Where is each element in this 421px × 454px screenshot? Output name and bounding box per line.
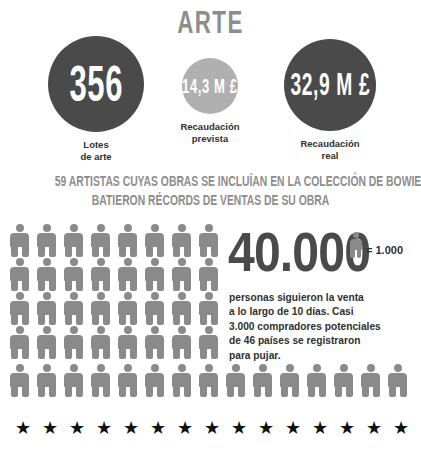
person-leg-r [76,314,83,325]
legend-label: = 1.000 [366,244,403,258]
person-head [70,326,78,334]
person-leg-l [200,314,207,325]
person-leg-l [119,246,126,257]
person-head [70,292,78,300]
person-leg-r [49,280,56,291]
person-icon [87,326,114,359]
person-body [172,335,191,349]
person-body [145,301,164,315]
person-leg-r [49,246,56,257]
person-leg-l [146,280,153,291]
person-leg-r [184,348,191,359]
person-leg-r [22,386,29,397]
person-leg-r [238,386,245,397]
person-leg-r [76,280,83,291]
person-leg-l [173,246,180,257]
person-leg-right [357,249,362,258]
person-icon [168,224,195,257]
person-head [205,258,213,266]
pictogram-row [6,292,222,325]
person-icon [141,292,168,325]
person-icon [195,364,222,397]
pictogram-row [6,258,222,291]
headline-line-1: 59 ARTISTAS CUYAS OBRAS SE INCLUÍAN EN L… [55,172,367,191]
person-leg-r [130,386,137,397]
person-body [253,373,272,387]
person-leg-l [65,280,72,291]
person-leg-r [211,314,218,325]
person-head [16,224,24,232]
person-leg-l [92,386,99,397]
star-icon: ★ [198,418,225,438]
person-body [172,373,191,387]
person-icon [195,224,222,257]
person-body [145,373,164,387]
person-head [43,224,51,232]
person-body [118,301,137,315]
person-leg-r [157,348,164,359]
person-leg-l [335,386,342,397]
stat-caption-real: Recaudación real [260,138,400,162]
person-leg-l [389,386,396,397]
person-body [361,373,380,387]
person-head [70,224,78,232]
person-head [367,364,375,372]
stat-circle-prevista: 14,3 M £ [182,58,238,114]
body-line-4: de 46 países se registraron [229,334,419,348]
person-head [16,326,24,334]
person-leg-l [38,348,45,359]
person-icon [384,364,411,397]
person-head [205,224,213,232]
person-icon [141,364,168,397]
person-leg-r [76,386,83,397]
person-head [151,224,159,232]
person-icon [195,326,222,359]
person-icon [348,232,363,258]
person-body [199,301,218,315]
person-leg-l [11,246,18,257]
person-head [151,292,159,300]
person-leg-r [130,348,137,359]
person-leg-l [11,280,18,291]
person-icon [168,258,195,291]
person-icon [33,224,60,257]
headline: 59 ARTISTAS CUYAS OBRAS SE INCLUÍAN EN L… [0,172,421,210]
person-leg-l [227,386,234,397]
person-head [353,232,359,238]
person-head [340,364,348,372]
person-leg-l [92,246,99,257]
person-leg-r [211,280,218,291]
person-body [118,373,137,387]
person-leg-r [184,246,191,257]
person-leg-r [292,386,299,397]
person-body [10,301,29,315]
person-leg-l [146,314,153,325]
star-icon: ★ [225,418,252,438]
person-leg-r [130,280,137,291]
person-body [91,267,110,281]
person-leg-l [200,348,207,359]
person-body [172,233,191,247]
person-body [199,335,218,349]
person-icon [141,326,168,359]
person-body [91,373,110,387]
star-icon: ★ [90,418,117,438]
person-body [172,301,191,315]
person-head [16,364,24,372]
stat-caption-prevista: Recaudación prevista [140,121,280,145]
person-head [43,258,51,266]
star-icon: ★ [117,418,144,438]
person-body [64,335,83,349]
person-leg-l [38,280,45,291]
person-leg-l [38,314,45,325]
person-icon [60,258,87,291]
person-leg-l [92,314,99,325]
person-icon [6,364,33,397]
person-head [205,326,213,334]
person-leg-l [119,280,126,291]
star-icon: ★ [144,418,171,438]
person-leg-r [49,386,56,397]
person-body [199,267,218,281]
person-body [10,233,29,247]
person-icon [6,224,33,257]
